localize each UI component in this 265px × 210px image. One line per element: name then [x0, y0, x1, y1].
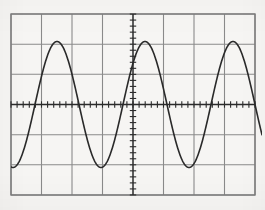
- oscilloscope-display: [0, 0, 265, 210]
- waveform-plot: [0, 0, 265, 210]
